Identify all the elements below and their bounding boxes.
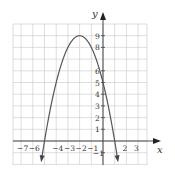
axes [13, 12, 161, 165]
y-axis-arrow-icon [100, 12, 106, 20]
x-tick-label: 2 [122, 144, 127, 153]
curve-right-arrow-icon [115, 155, 120, 162]
y-tick-label: 8 [95, 43, 100, 52]
parabola-graph: x y −7−6−4−3−2−12312345689−1 [0, 0, 175, 178]
x-tick-label: 3 [134, 144, 139, 153]
y-tick-label: 3 [95, 102, 100, 111]
y-tick-label: 4 [95, 90, 100, 99]
y-tick-label: 5 [95, 79, 100, 88]
y-tick-label: −1 [93, 149, 104, 158]
x-tick-label: −7 [17, 144, 28, 153]
tick-labels: −7−6−4−3−2−12312345689−1 [17, 32, 139, 158]
y-axis-label: y [91, 8, 98, 19]
y-tick-label: 9 [95, 32, 100, 41]
x-tick-label: −3 [64, 144, 75, 153]
y-tick-label: 2 [95, 114, 100, 123]
x-tick-label: −4 [52, 144, 63, 153]
x-tick-label: −6 [29, 144, 40, 153]
curve-left-arrow-icon [40, 155, 45, 162]
x-axis-label: x [157, 144, 163, 155]
y-tick-label: 1 [95, 125, 100, 134]
x-tick-label: −2 [76, 144, 87, 153]
